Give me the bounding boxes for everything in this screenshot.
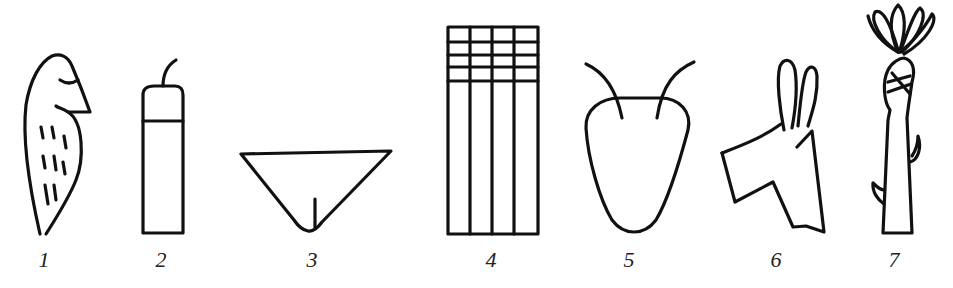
glyph-canvas [0, 0, 953, 288]
glyph-5-ox-head-icon [586, 62, 694, 232]
glyph-label-2: 2 [146, 248, 176, 272]
glyph-label-4: 4 [476, 248, 506, 272]
glyph-label-3: 3 [297, 248, 327, 272]
glyph-4-grid-icon [448, 27, 538, 234]
pictograph-figure: 1 2 3 4 5 6 7 [0, 0, 953, 288]
glyph-2-vessel-icon [143, 60, 183, 233]
glyph-label-1: 1 [29, 248, 59, 272]
glyph-1-bird-icon [25, 55, 90, 234]
glyph-6-donkey-head-icon [722, 60, 824, 232]
glyph-label-7: 7 [879, 248, 909, 272]
glyph-label-5: 5 [614, 248, 644, 272]
glyph-3-triangle-icon [241, 151, 391, 231]
glyph-label-6: 6 [761, 248, 791, 272]
glyph-7-plant-icon [868, 5, 934, 233]
